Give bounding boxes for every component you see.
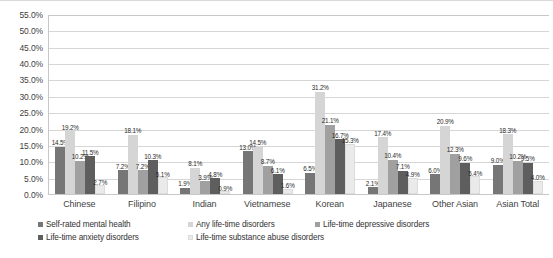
bar[interactable]: 16.7% — [335, 139, 345, 194]
x-axis-label: Indian — [173, 199, 236, 215]
y-axis-tick: 40.0% — [19, 59, 43, 69]
bar-value-label: 20.9% — [437, 118, 454, 125]
y-axis-tick: 35.0% — [19, 75, 43, 85]
bar[interactable]: 4.9% — [408, 178, 418, 194]
bar[interactable]: 10.2% — [513, 161, 523, 194]
bar[interactable]: 20.9% — [440, 126, 450, 194]
bar[interactable]: 9.6% — [460, 163, 470, 194]
bar-value-label: 18.3% — [499, 127, 516, 134]
x-axis-labels: ChineseFilipinoIndianVietnameseKoreanJap… — [48, 199, 549, 215]
chart-legend: Self-rated mental healthAny life-time di… — [0, 220, 553, 256]
legend-label: Life-time substance abuse disorders — [196, 233, 324, 242]
bar-group: 14.5%19.2%10.2%11.5%2.7% — [49, 15, 112, 194]
legend-swatch-icon — [188, 235, 193, 240]
x-axis-label: Japanese — [361, 199, 424, 215]
bar-value-label: 15.3% — [342, 137, 359, 144]
bar[interactable]: 18.3% — [503, 134, 513, 194]
bar[interactable]: 5.1% — [158, 177, 168, 194]
bar[interactable]: 1.9% — [180, 188, 190, 194]
bar-group: 9.0%18.3%10.2%9.5%4.0% — [487, 15, 550, 194]
x-axis-label: Other Asian — [424, 199, 487, 215]
bar[interactable]: 14.5% — [253, 147, 263, 194]
y-axis-tick: 0.0% — [24, 190, 43, 200]
y-axis: 0.0%5.0%10.0%15.0%20.0%25.0%30.0%35.0%40… — [0, 15, 48, 195]
bar[interactable]: 4.0% — [533, 181, 543, 194]
y-axis-tick: 15.0% — [19, 141, 43, 151]
bar-value-label: 10.3% — [144, 153, 161, 160]
bar-group: 7.2%18.1%7.2%10.3%5.1% — [112, 15, 175, 194]
bar-value-label: 5.4% — [468, 170, 482, 177]
legend-item[interactable]: Life-time anxiety disorders — [38, 233, 139, 242]
bar[interactable]: 15.3% — [345, 144, 355, 194]
legend-item[interactable]: Life-time depressive disorders — [315, 220, 429, 229]
bar[interactable]: 0.9% — [220, 191, 230, 194]
legend-swatch-icon — [188, 222, 193, 227]
legend-swatch-icon — [38, 235, 43, 240]
bar-group: 6.5%31.2%21.1%16.7%15.3% — [299, 15, 362, 194]
bar-value-label: 12.3% — [447, 146, 464, 153]
bar-group: 2.1%17.4%10.4%7.1%4.9% — [362, 15, 425, 194]
bar-value-label: 6.1% — [271, 167, 285, 174]
y-axis-tick: 55.0% — [19, 10, 43, 20]
bar[interactable]: 1.6% — [283, 189, 293, 194]
bar[interactable]: 10.2% — [75, 161, 85, 194]
grid-area: 14.5%19.2%10.2%11.5%2.7%7.2%18.1%7.2%10.… — [48, 15, 549, 195]
bar[interactable]: 11.5% — [85, 156, 95, 194]
y-axis-tick: 50.0% — [19, 26, 43, 36]
bar[interactable]: 17.4% — [378, 137, 388, 194]
bar[interactable]: 13.0% — [243, 151, 253, 194]
y-axis-tick: 10.0% — [19, 157, 43, 167]
legend-item[interactable]: Any life-time disorders — [188, 220, 275, 229]
bar[interactable]: 14.5% — [55, 147, 65, 194]
bar-value-label: 31.2% — [312, 84, 329, 91]
bar-value-label: 11.5% — [82, 149, 99, 156]
bar[interactable]: 9.0% — [493, 165, 503, 194]
bar-group: 1.9%8.1%3.9%4.8%0.9% — [174, 15, 237, 194]
bar[interactable]: 7.2% — [118, 170, 128, 194]
bar-value-label: 9.5% — [521, 155, 535, 162]
legend-label: Any life-time disorders — [196, 220, 275, 229]
legend-label: Life-time anxiety disorders — [46, 233, 139, 242]
bar-value-label: 19.2% — [62, 124, 79, 131]
x-axis-label: Filipino — [111, 199, 174, 215]
bar[interactable]: 7.2% — [138, 170, 148, 194]
y-axis-tick: 25.0% — [19, 108, 43, 118]
bar[interactable]: 2.1% — [368, 187, 378, 194]
bar[interactable]: 19.2% — [65, 131, 75, 194]
bars-layer: 14.5%19.2%10.2%11.5%2.7%7.2%18.1%7.2%10.… — [49, 15, 549, 194]
bar-value-label: 4.0% — [531, 174, 545, 181]
bar[interactable]: 6.0% — [430, 174, 440, 194]
bar-value-label: 10.4% — [384, 152, 401, 159]
x-axis-label: Vietnamese — [236, 199, 299, 215]
legend-item[interactable]: Self-rated mental health — [38, 220, 131, 229]
bar[interactable]: 6.5% — [305, 173, 315, 194]
plot-area: 0.0%5.0%10.0%15.0%20.0%25.0%30.0%35.0%40… — [0, 15, 553, 199]
bar-value-label: 9.6% — [458, 155, 472, 162]
y-axis-tick: 5.0% — [24, 174, 43, 184]
legend-label: Self-rated mental health — [46, 220, 131, 229]
bar-value-label: 1.6% — [281, 182, 295, 189]
bar[interactable]: 5.4% — [470, 176, 480, 194]
bar[interactable]: 31.2% — [315, 92, 325, 194]
bar[interactable]: 8.1% — [190, 168, 200, 195]
bar-value-label: 8.1% — [188, 160, 202, 167]
x-axis-label: Korean — [299, 199, 362, 215]
bar-value-label: 5.1% — [156, 171, 170, 178]
bar[interactable]: 3.9% — [200, 181, 210, 194]
y-axis-tick: 45.0% — [19, 43, 43, 53]
y-axis-tick: 20.0% — [19, 125, 43, 135]
bar[interactable]: 2.7% — [95, 185, 105, 194]
legend-label: Life-time depressive disorders — [323, 220, 429, 229]
x-axis-label: Chinese — [48, 199, 111, 215]
legend-item[interactable]: Life-time substance abuse disorders — [188, 233, 324, 242]
bar-value-label: 14.5% — [249, 139, 266, 146]
bar-value-label: 21.1% — [322, 117, 339, 124]
bar-value-label: 17.4% — [374, 130, 391, 137]
bar-value-label: 4.9% — [406, 171, 420, 178]
bar-value-label: 4.8% — [208, 171, 222, 178]
bar-chart: 0.0%5.0%10.0%15.0%20.0%25.0%30.0%35.0%40… — [0, 0, 553, 258]
y-axis-tick: 30.0% — [19, 92, 43, 102]
legend-swatch-icon — [315, 222, 320, 227]
bar-value-label: 8.7% — [261, 158, 275, 165]
bar-value-label: 2.7% — [93, 179, 107, 186]
